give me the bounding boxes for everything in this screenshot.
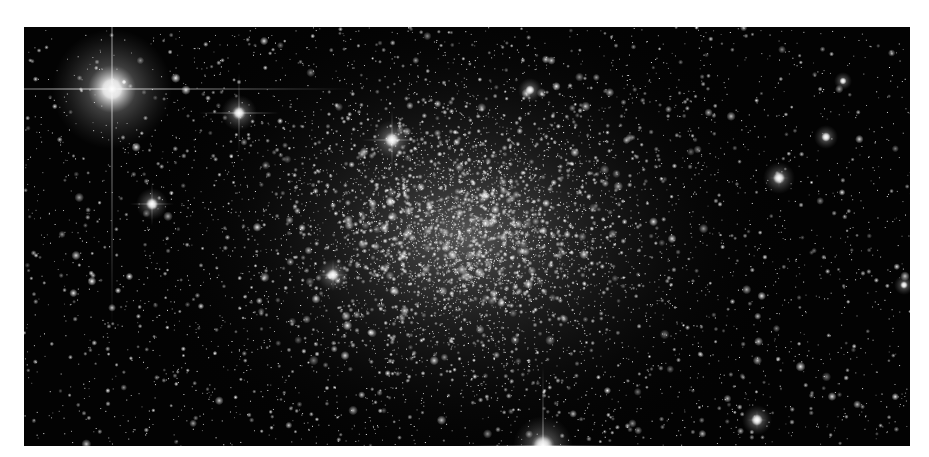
star-cluster-photo: Globular star cluster on black sky with …: [24, 27, 910, 446]
star-field-canvas: [24, 27, 910, 446]
